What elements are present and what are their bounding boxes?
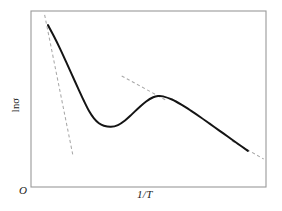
tangent-line-intrinsic — [45, 15, 73, 155]
plot-canvas — [0, 0, 282, 211]
y-axis-label: lnσ — [2, 88, 28, 122]
origin-label: O — [19, 184, 27, 196]
conductivity-figure: lnσ 1/T O — [0, 0, 282, 211]
x-axis-label: 1/T — [137, 188, 153, 200]
y-axis-label-text: lnσ — [10, 98, 21, 112]
conductivity-curve — [48, 25, 248, 151]
